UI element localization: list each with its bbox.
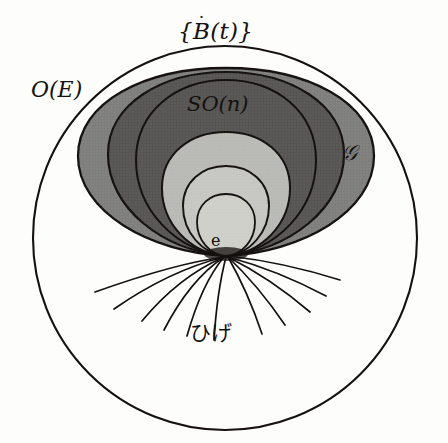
label-b-dot-accented: ˙B: [193, 20, 210, 43]
label-b-dot-set: {˙B(t)}: [178, 20, 253, 43]
dot-accent-icon: ˙: [197, 14, 207, 33]
label-identity-element: e: [211, 233, 220, 249]
label-b-dot-arg: (t)}: [210, 18, 253, 44]
label-b-dot-brace-open: {: [178, 18, 193, 44]
label-whiskers-hige: ひげ: [190, 323, 232, 344]
label-orthogonal-group: O(E): [31, 79, 82, 101]
diagram-canvas: [0, 0, 448, 443]
label-special-orthogonal-group: SO(n): [187, 94, 249, 115]
label-script-g: 𝒢: [342, 143, 357, 164]
math-diagram-figure: {˙B(t)} O(E) SO(n) 𝒢 e ひげ: [0, 0, 448, 443]
